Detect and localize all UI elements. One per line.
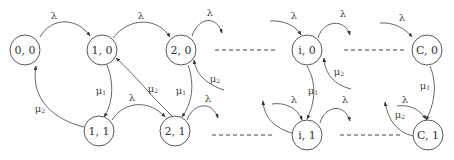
state-node-0-0: 0, 0 — [10, 35, 40, 65]
edge-label-lambda: λ — [291, 10, 298, 21]
svg-text:2, 0: 2, 0 — [171, 44, 192, 57]
edge-in-to-i1 — [272, 104, 302, 120]
edge-in-to-i0 — [270, 21, 301, 35]
svg-text:C, 0: C, 0 — [416, 44, 438, 57]
edge-label-lambda: λ — [138, 10, 145, 21]
edge-21-out — [187, 106, 218, 120]
edge-label-mu2: μ2 — [210, 73, 221, 84]
state-node-2-1: 2, 1 — [160, 116, 190, 146]
edge-label-lambda: λ — [402, 94, 409, 105]
edge-label-mu2: μ2 — [395, 109, 406, 120]
edge-label-mu2: μ2 — [35, 103, 46, 114]
svg-text:1, 0: 1, 0 — [92, 44, 113, 57]
state-node-2-0: 2, 0 — [166, 35, 196, 65]
edge-label-lambda: λ — [51, 10, 58, 21]
edge-label-mu1: μ1 — [420, 80, 430, 91]
edge-00-to-10 — [40, 22, 90, 37]
edge-label-lambda: λ — [207, 7, 214, 18]
svg-text:2, 1: 2, 1 — [165, 125, 186, 138]
edge-label-mu1: μ1 — [308, 85, 318, 96]
state-node-C-0: C, 0 — [412, 35, 442, 65]
state-node-C-1: C, 1 — [413, 120, 443, 150]
svg-text:0, 0: 0, 0 — [15, 44, 36, 57]
state-node-1-1: 1, 1 — [84, 116, 114, 146]
edge-label-mu1: μ1 — [176, 85, 186, 96]
svg-text:1, 1: 1, 1 — [89, 125, 110, 138]
edge-label-mu2: μ2 — [148, 83, 159, 94]
edge-label-lambda: λ — [205, 93, 212, 104]
state-node-i-1: i, 1 — [292, 120, 322, 150]
edge-C0-to-C1 — [426, 66, 434, 120]
state-node-i-0: i, 0 — [292, 35, 322, 65]
edge-21-to-10 — [116, 58, 172, 116]
edge-label-lambda: λ — [342, 94, 349, 105]
edge-label-lambda: λ — [129, 92, 136, 103]
edge-11-to-21 — [112, 105, 165, 120]
edge-11-to-00 — [35, 66, 84, 127]
edge-label-lambda: λ — [399, 12, 406, 23]
edge-label-mu2: μ2 — [334, 66, 345, 77]
edge-i1-out — [320, 108, 350, 123]
svg-text:i, 1: i, 1 — [298, 129, 316, 142]
edge-label-lambda: λ — [291, 94, 298, 105]
state-diagram: λ λ λ μ1 μ2 λ μ2 μ1 μ2 λ λ λ μ1 μ2 λ λ λ — [0, 0, 454, 160]
svg-text:C, 1: C, 1 — [417, 129, 439, 142]
edge-label-mu1: μ1 — [96, 85, 106, 96]
edge-i0-out — [318, 23, 350, 38]
edge-in-to-C0 — [380, 23, 412, 37]
edge-20-out — [192, 21, 222, 36]
state-node-1-0: 1, 0 — [87, 35, 117, 65]
edge-10-to-20 — [113, 22, 170, 38]
edge-label-lambda: λ — [340, 8, 347, 19]
svg-text:i, 0: i, 0 — [298, 44, 316, 57]
